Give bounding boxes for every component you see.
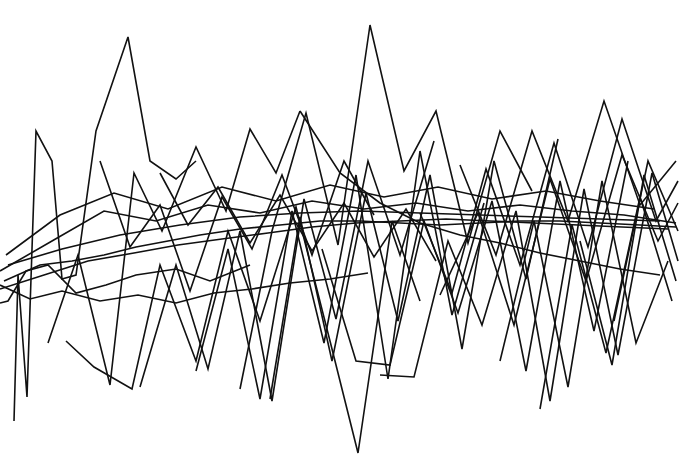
spaghetti-line-chart (0, 0, 681, 461)
chart-canvas (0, 0, 681, 461)
